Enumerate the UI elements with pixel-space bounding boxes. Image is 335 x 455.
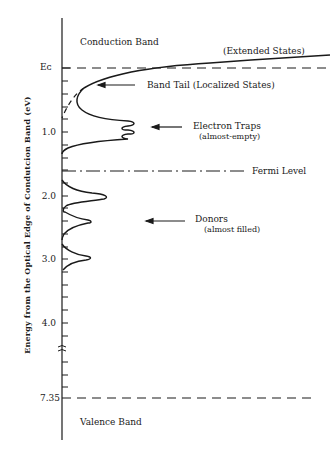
tick-label-3: 3.0: [26, 255, 56, 264]
donors-sublabel: (almost filled): [204, 226, 260, 234]
tick-label-4: 4.0: [26, 319, 56, 328]
tick-label-735: 7.35: [30, 394, 60, 403]
axis-ticks: [62, 68, 70, 387]
donors-label: Donors: [195, 215, 228, 224]
donor-peaks-curve-lower: [62, 244, 91, 270]
electron-traps-sublabel: (almost-empty): [199, 133, 260, 141]
valence-band-label: Valence Band: [80, 418, 142, 427]
band-tail-arrowhead-icon: [98, 83, 105, 88]
band-diagram: Energy from the Optical Edge of Condutci…: [0, 0, 335, 455]
band-tail-label: Band Tail (Localized States): [147, 81, 275, 90]
tick-label-1: 1.0: [26, 128, 56, 137]
fermi-level-label: Fermi Level: [252, 167, 306, 176]
extended-states-label: (Extended States): [223, 47, 305, 56]
electron-traps-label: Electron Traps: [193, 122, 261, 131]
electron-traps-arrowhead-icon: [152, 125, 159, 130]
conduction-band-label: Conduction Band: [80, 38, 159, 47]
tick-label-ec: Eᴄ: [40, 63, 60, 72]
donors-arrowhead-icon: [146, 219, 153, 224]
donor-peaks-curve-upper: [62, 180, 107, 240]
electron-traps-curve: [62, 88, 134, 154]
tick-label-2: 2.0: [26, 192, 56, 201]
arrows: [98, 83, 185, 224]
